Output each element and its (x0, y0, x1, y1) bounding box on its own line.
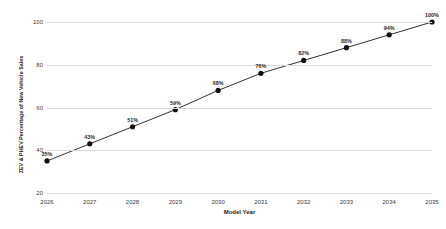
y-axis-tick-labels: 20406080100 (13, 22, 43, 193)
data-point-label: 82% (298, 50, 309, 56)
y-tick-label: 20 (17, 190, 43, 196)
chart-container: ZEV & PHEV Percentage of New Vehicle Sal… (0, 0, 446, 229)
y-tick-label: 80 (17, 62, 43, 68)
x-tick-label: 2035 (412, 199, 446, 205)
data-point-label: 68% (213, 80, 224, 86)
gridline-y-100 (47, 22, 432, 23)
data-point-label: 35% (42, 151, 53, 157)
y-tick-label: 40 (17, 147, 43, 153)
data-point-marker[interactable] (44, 158, 49, 163)
gridline-y-40 (47, 150, 432, 151)
x-tick-label: 2030 (198, 199, 238, 205)
data-point-marker[interactable] (258, 71, 263, 76)
y-tick-label: 100 (17, 19, 43, 25)
x-tick-label: 2032 (284, 199, 324, 205)
data-point-label: 51% (127, 117, 138, 123)
data-point-marker[interactable] (216, 88, 221, 93)
data-point-marker[interactable] (130, 124, 135, 129)
data-point-marker[interactable] (387, 32, 392, 37)
plot-area: 35%43%51%59%68%76%82%88%94%100% (47, 22, 432, 193)
x-tick-label: 2028 (113, 199, 153, 205)
data-point-marker[interactable] (301, 58, 306, 63)
gridline-y-60 (47, 108, 432, 109)
data-point-label: 59% (170, 100, 181, 106)
data-point-label: 94% (384, 25, 395, 31)
data-point-label: 43% (84, 134, 95, 140)
data-point-label: 100% (425, 12, 439, 18)
data-point-label: 76% (255, 63, 266, 69)
data-point-marker[interactable] (87, 141, 92, 146)
gridline-y-80 (47, 65, 432, 66)
x-tick-label: 2031 (241, 199, 281, 205)
data-point-marker[interactable] (344, 45, 349, 50)
x-tick-label: 2034 (369, 199, 409, 205)
series-line (47, 22, 432, 161)
x-tick-label: 2026 (27, 199, 67, 205)
gridline-y-20 (47, 193, 432, 194)
data-point-label: 88% (341, 38, 352, 44)
x-tick-label: 2027 (70, 199, 110, 205)
x-axis-title: Model Year (47, 209, 432, 215)
x-tick-label: 2029 (155, 199, 195, 205)
y-tick-label: 60 (17, 105, 43, 111)
x-tick-label: 2033 (326, 199, 366, 205)
